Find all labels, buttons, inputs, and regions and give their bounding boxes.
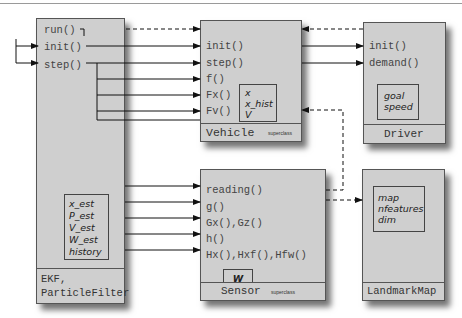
dashed-sensor-to-vehicle: [302, 110, 343, 190]
run-bracket: [80, 29, 84, 36]
connector-layer: [0, 0, 462, 318]
